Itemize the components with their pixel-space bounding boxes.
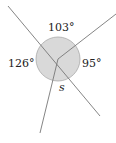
angle-diagram: 103° 126° 95° s	[0, 0, 116, 143]
angle-label-right: 95°	[82, 57, 102, 70]
angle-label-top: 103°	[48, 21, 75, 34]
angle-label-s: s	[59, 81, 65, 94]
angle-label-left: 126°	[8, 57, 35, 70]
